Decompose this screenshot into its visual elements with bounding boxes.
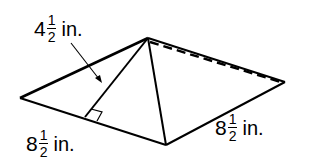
base-edge-right-label: 8 1 2 in. (215, 112, 264, 143)
hidden-edge-dashed (150, 42, 284, 83)
slant-height-line (85, 38, 148, 117)
base-edge-left-fraction: 1 2 (39, 128, 49, 159)
slant-height-denominator: 2 (48, 29, 56, 44)
arrowhead-icon (95, 75, 102, 83)
slant-height-whole: 4 (34, 18, 46, 39)
slant-height-numerator: 1 (47, 13, 57, 29)
base-edge-right-whole: 8 (215, 117, 227, 138)
right-angle-marker (91, 109, 102, 121)
base-edge-left-label: 8 1 2 in. (26, 128, 75, 159)
lateral-edge-right (148, 38, 285, 82)
base-edge-right-fraction: 1 2 (228, 112, 238, 143)
lateral-edge-front (148, 38, 166, 145)
base-edge-right-unit: in. (242, 118, 263, 138)
slant-height-label: 4 1 2 in. (34, 13, 83, 44)
base-edge-right-numerator: 1 (228, 112, 238, 128)
slant-height-unit: in. (61, 19, 82, 39)
base-edge-left-denominator: 2 (40, 144, 48, 159)
base-edge-right-denominator: 2 (229, 128, 237, 143)
base-edge-left-whole: 8 (26, 133, 38, 154)
base-edge-left-unit: in. (53, 134, 74, 154)
leader-line (71, 43, 99, 79)
base-edge-back-left (20, 38, 148, 98)
slant-height-fraction: 1 2 (47, 13, 57, 44)
base-edge-left-numerator: 1 (39, 128, 49, 144)
